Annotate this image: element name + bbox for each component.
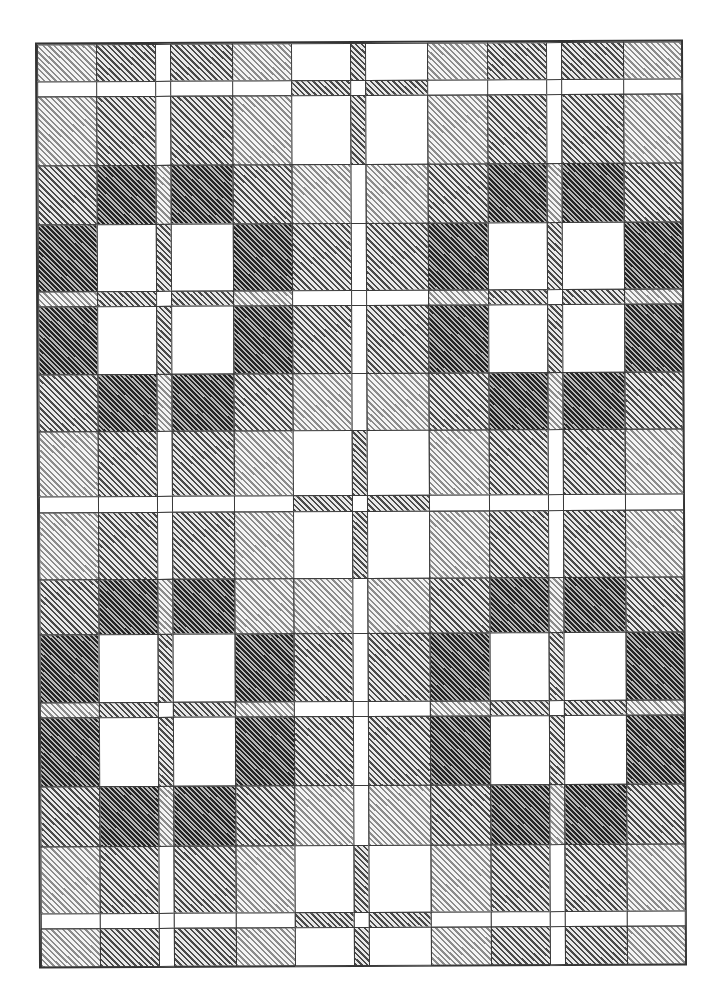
plaid-cell-medium <box>294 716 354 786</box>
plaid-cell-white <box>351 290 367 306</box>
plaid-cell-medium-dark <box>98 579 158 635</box>
plaid-cell-white <box>158 846 174 914</box>
plaid-cell-white <box>548 429 564 495</box>
plaid-cell-medium <box>158 717 174 787</box>
plaid-cell-medium <box>624 163 683 223</box>
plaid-cell-light <box>625 510 684 578</box>
plaid-cell-medium <box>38 165 98 225</box>
plaid-cell-light <box>430 844 491 912</box>
plaid-cell-medium-dark <box>488 163 548 223</box>
plaid-cell-light <box>41 928 101 967</box>
plaid-cell-medium <box>563 510 626 578</box>
plaid-cell-medium <box>547 222 563 290</box>
plaid-cell-medium <box>352 511 368 579</box>
plaid-cell-light <box>37 96 97 166</box>
plaid-cell-white <box>561 79 624 95</box>
plaid-cell-white <box>352 578 368 634</box>
plaid-cell-medium-dark <box>235 633 295 702</box>
plaid-cell-light <box>625 429 684 495</box>
plaid-cell-medium-dark <box>233 305 293 374</box>
plaid-cell-light <box>39 512 99 580</box>
plaid-cell-medium <box>172 512 235 580</box>
plaid-cell-white <box>350 80 366 96</box>
plaid-cell-light <box>627 926 686 965</box>
plaid-cell-white <box>431 911 492 927</box>
plaid-cell-white <box>98 496 158 513</box>
plaid-cell-white <box>155 44 171 82</box>
plaid-cell-white <box>565 911 628 927</box>
plaid-cell-medium <box>487 42 547 80</box>
plaid-cell-medium <box>39 579 99 635</box>
plaid-cell-white <box>97 306 157 375</box>
plaid-cell-white <box>550 926 566 965</box>
plaid-cell-white <box>564 715 627 785</box>
plaid-cell-medium <box>170 96 233 166</box>
plaid-cell-light <box>40 702 100 718</box>
plaid-cell-medium <box>350 43 366 81</box>
plaid-cell-light <box>292 373 352 431</box>
plaid-cell-medium <box>626 784 685 845</box>
plaid-cell-medium <box>352 430 368 496</box>
plaid-cell-medium <box>293 495 353 512</box>
plaid-cell-medium <box>368 633 431 702</box>
plaid-pattern-grid <box>35 40 687 969</box>
plaid-cell-white <box>548 510 564 578</box>
plaid-cell-medium <box>564 700 627 716</box>
plaid-cell-medium <box>99 702 159 718</box>
plaid-cell-white <box>157 431 173 497</box>
plaid-cell-medium-dark <box>233 223 293 291</box>
plaid-cell-medium <box>549 715 565 785</box>
plaid-cell-medium <box>487 94 547 164</box>
plaid-cell-light <box>37 44 97 82</box>
plaid-cell-medium <box>292 305 352 374</box>
plaid-cell-light <box>234 511 294 579</box>
plaid-cell-white <box>157 512 173 580</box>
plaid-cell-white <box>96 81 156 97</box>
plaid-cell-light <box>158 786 174 847</box>
plaid-cell-medium-dark <box>235 716 295 786</box>
plaid-cell-white <box>489 494 549 511</box>
plaid-cell-medium-dark <box>564 784 627 845</box>
plaid-cell-white <box>367 511 430 579</box>
page-canvas <box>0 0 706 1008</box>
plaid-cell-white <box>158 702 174 718</box>
plaid-cell-medium <box>98 431 158 497</box>
plaid-cell-light <box>156 374 172 432</box>
plaid-cell-white <box>366 290 429 306</box>
plaid-cell-medium <box>368 716 431 786</box>
plaid-cell-white <box>291 43 351 81</box>
plaid-cell-white <box>351 305 367 374</box>
plaid-cell-medium <box>428 163 489 223</box>
plaid-cell-light <box>623 94 682 164</box>
plaid-cell-light <box>38 291 98 307</box>
plaid-cell-medium-dark <box>428 304 489 373</box>
plaid-cell-medium <box>172 431 235 497</box>
plaid-cell-white <box>491 911 551 927</box>
plaid-cell-light <box>547 163 563 223</box>
plaid-cell-white <box>234 495 294 512</box>
plaid-cell-medium <box>158 634 174 703</box>
plaid-cell-light <box>429 510 490 578</box>
plaid-cell-light <box>367 578 430 634</box>
plaid-cell-white <box>487 79 547 95</box>
plaid-cell-white <box>353 701 369 717</box>
plaid-cell-medium <box>624 372 683 430</box>
plaid-cell-white <box>99 717 159 787</box>
plaid-cell-medium <box>561 94 624 164</box>
plaid-cell-white <box>547 289 563 305</box>
plaid-cell-white <box>488 222 548 290</box>
plaid-cell-medium <box>429 577 490 633</box>
plaid-cell-medium-dark <box>624 304 683 373</box>
plaid-cell-light <box>236 927 296 966</box>
plaid-cell-white <box>351 223 367 291</box>
plaid-cell-medium <box>565 926 628 965</box>
plaid-cell-medium <box>100 928 160 967</box>
plaid-cell-light <box>549 784 565 845</box>
plaid-cell-medium <box>564 844 627 912</box>
plaid-cell-medium <box>489 510 549 578</box>
plaid-cell-medium <box>366 223 429 291</box>
plaid-cell-white <box>236 912 296 928</box>
plaid-cell-light <box>232 43 292 81</box>
plaid-cell-light <box>624 289 683 305</box>
plaid-cell-white <box>564 632 627 701</box>
